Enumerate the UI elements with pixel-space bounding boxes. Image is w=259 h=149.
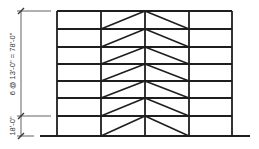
brace-right-story-4 bbox=[145, 64, 189, 81]
brace-right-story-3 bbox=[145, 81, 189, 98]
brace-left-story-1 bbox=[101, 116, 145, 136]
brace-left-story-4 bbox=[101, 64, 145, 81]
dimension-lines bbox=[17, 8, 51, 139]
upper-dimension-label: 6 @ 13'-0" = 78'-0" bbox=[8, 32, 17, 95]
brace-left-story-7 bbox=[101, 11, 145, 29]
brace-right-story-2 bbox=[145, 98, 189, 116]
brace-left-story-5 bbox=[101, 47, 145, 64]
braced-frame-elevation: 6 @ 13'-0" = 78'-0" 18'-0" bbox=[0, 0, 259, 149]
brace-right-story-1 bbox=[145, 116, 189, 136]
brace-right-story-7 bbox=[145, 11, 189, 29]
brace-left-story-6 bbox=[101, 29, 145, 47]
brace-right-story-5 bbox=[145, 47, 189, 64]
brace-left-story-3 bbox=[101, 81, 145, 98]
brace-right-story-6 bbox=[145, 29, 189, 47]
lower-dimension-label: 18'-0" bbox=[8, 116, 17, 135]
brace-left-story-2 bbox=[101, 98, 145, 116]
